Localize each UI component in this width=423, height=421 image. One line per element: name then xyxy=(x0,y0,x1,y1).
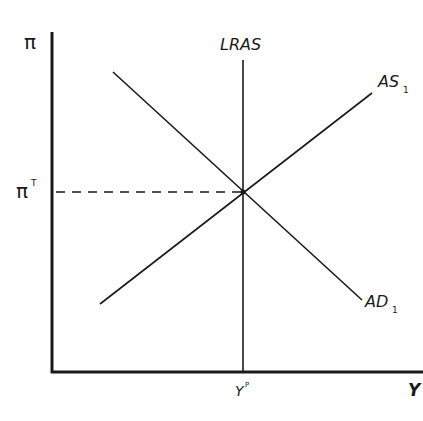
target-inflation-label: π xyxy=(16,179,28,203)
y-axis-label: π xyxy=(24,30,36,54)
potential-output-superscript: P xyxy=(245,381,249,389)
as-label: AS xyxy=(377,72,399,91)
as-subscript: 1 xyxy=(403,85,409,95)
equilibrium-point xyxy=(241,190,246,195)
lras-label: LRAS xyxy=(220,35,261,54)
ad-as-diagram: π π T LRAS AS 1 AD 1 Y P Y xyxy=(0,0,423,421)
ad-label: AD xyxy=(364,292,388,311)
target-inflation-superscript: T xyxy=(30,178,37,188)
potential-output-label: Y xyxy=(235,383,245,399)
ad-subscript: 1 xyxy=(392,305,398,315)
x-axis-label: Y xyxy=(408,380,422,400)
